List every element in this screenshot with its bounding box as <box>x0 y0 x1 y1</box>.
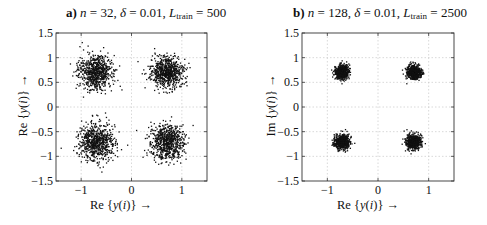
y-tick-label: 0 <box>293 100 299 114</box>
x-tick-label: 0 <box>375 183 381 197</box>
panel-b-plot: −101−1.5−1−0.500.511.5 <box>0 0 487 225</box>
y-tick-label: −1.5 <box>277 174 299 188</box>
y-tick-label: 1 <box>293 51 299 65</box>
y-tick-label: −1 <box>286 149 299 163</box>
x-tick-label: 1 <box>426 183 432 197</box>
y-tick-label: 1.5 <box>284 26 299 40</box>
y-tick-label: 0.5 <box>284 75 299 89</box>
x-tick-label: −1 <box>321 183 334 197</box>
y-tick-label: −0.5 <box>277 125 299 139</box>
scatter-points <box>331 60 426 154</box>
